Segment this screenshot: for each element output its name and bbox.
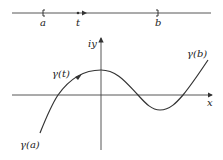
x-axis-label: x xyxy=(207,97,213,108)
label-a: a xyxy=(40,17,46,28)
point-t xyxy=(77,12,80,15)
y-axis-label: iy xyxy=(88,38,97,49)
label-gamma-b: γ(b) xyxy=(187,48,207,59)
label-t: t xyxy=(76,17,81,28)
contour-diagram: a t b x iy γ(a) γ(t) γ(b) xyxy=(0,0,223,160)
label-gamma-t: γ(t) xyxy=(52,68,70,79)
label-gamma-a: γ(a) xyxy=(20,139,40,150)
complex-plane: x iy γ(a) γ(t) γ(b) xyxy=(12,38,213,150)
label-b: b xyxy=(155,17,161,28)
parameter-line: a t b xyxy=(12,10,211,28)
curve-direction-arrow-icon xyxy=(75,74,82,80)
direction-arrow-icon xyxy=(82,11,87,16)
